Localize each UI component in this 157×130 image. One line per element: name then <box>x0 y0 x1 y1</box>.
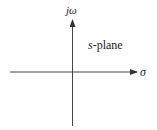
real-axis-label: σ <box>140 66 146 78</box>
plane-label: s-plane <box>88 39 123 51</box>
plane-suffix: -plane <box>93 38 123 52</box>
imaginary-axis-label: jω <box>66 5 77 16</box>
axes-graphic <box>0 0 157 130</box>
s-plane-diagram: jω s-plane σ <box>0 0 157 130</box>
